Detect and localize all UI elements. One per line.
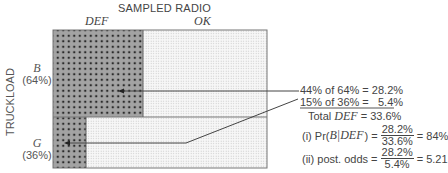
calc-posterior-prob: (i) Pr(B|DEF) = 28.2% 33.6% = 84% [302, 124, 448, 147]
row-label-g: G (36%) [22, 137, 52, 161]
calc-line-b: 44% of 64% = 28.2% [300, 84, 403, 96]
y-axis-label: TRUCKLOAD [4, 68, 16, 136]
column-label-ok: OK [194, 14, 211, 29]
row-label-g-name: G [22, 137, 52, 149]
calc-total: Total DEF = 33.6% [308, 109, 401, 124]
row-label-b-name: B [22, 62, 52, 74]
fraction-odds: 28.2% 5.4% [381, 147, 414, 170]
row-label-b: B (64%) [22, 62, 52, 86]
cell-b-ok [143, 30, 267, 117]
calc-posterior-odds: (ii) post. odds = 28.2% 5.4% = 5.21 [302, 147, 448, 170]
fraction-pr: 28.2% 33.6% [381, 124, 414, 147]
diagram-title: SAMPLED RADIO [118, 2, 211, 14]
cell-b-def [53, 30, 143, 117]
column-label-def: DEF [85, 14, 108, 29]
calc-line-g: 15% of 36% = 5.4% [300, 96, 403, 108]
row-label-b-share: (64%) [22, 74, 52, 86]
row-label-g-share: (36%) [22, 149, 52, 161]
